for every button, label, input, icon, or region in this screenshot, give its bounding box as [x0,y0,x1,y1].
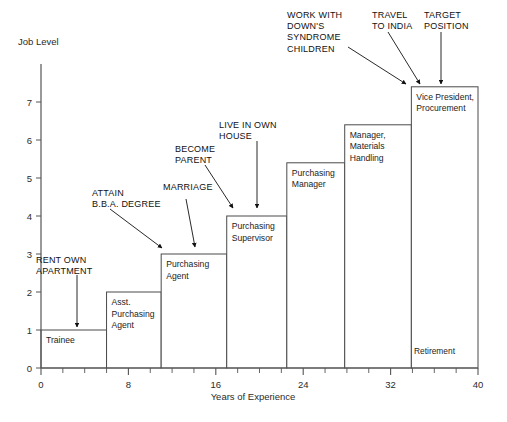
annotation-live-in-own-house: LIVE IN OWNHOUSE [219,120,277,208]
career-path-step-chart: 012345670816243240 TraineeAsst.Purchasin… [0,0,507,422]
annotation-become-parent: BECOMEPARENT [175,144,233,208]
x-tick-label: 24 [298,379,309,390]
annotation-text: MARRIAGE [163,182,213,192]
annotation-text: LIVE IN OWN [219,120,277,130]
annotation-text: SYNDROME [287,32,341,42]
annotation-text: POSITION [424,21,469,31]
y-tick-label: 5 [27,173,32,184]
annotation-text: BECOME [175,144,215,154]
annotation-text: HOUSE [219,131,252,141]
annotation-text: APARTMENT [36,266,93,276]
x-tick-label: 8 [126,379,131,390]
y-tick-label: 2 [27,287,32,298]
step-label: Purchasing [232,221,275,231]
annotation-text: ATTAIN [92,188,124,198]
annotation-arrow [388,32,420,84]
annotation-text: RENT OWN [36,255,86,265]
annotation-text: PARENT [175,155,212,165]
step-label: Handling [350,153,384,163]
retirement-label: Retirement [414,346,456,356]
x-tick-label: 40 [473,379,484,390]
x-tick-label: 32 [385,379,396,390]
annotation-arrow [348,47,406,84]
annotation-target-position: TARGETPOSITION [424,10,469,84]
y-tick-label: 0 [27,363,32,374]
annotation-text: WORK WITH [287,10,342,20]
step-label: Procurement [416,103,466,113]
step-label: Purchasing [166,259,209,269]
y-tick-label: 4 [27,211,32,222]
y-tick-label: 6 [27,135,32,146]
annotation-text: CHILDREN [287,44,335,54]
step-label: Manager, [350,130,386,140]
step-label: Supervisor [232,233,273,243]
y-tick-label: 3 [27,249,32,260]
annotation-text: TRAVEL [372,10,408,20]
annotation-arrow [110,209,162,248]
x-axis-title: Years of Experience [211,391,296,402]
annotation-attain-bba-degree: ATTAINB.B.A. DEGREE [92,188,162,248]
step-label: Trainee [46,335,75,345]
annotation-marriage: MARRIAGE [163,182,213,247]
step-label: Agent [166,271,189,281]
step-label: Asst. [112,297,131,307]
extra-labels-group: Retirement [414,346,456,356]
x-tick-label: 16 [211,379,222,390]
step-box [411,87,478,368]
step-label: Agent [112,320,135,330]
step-label: Purchasing [112,309,155,319]
step-label: Vice President, [416,92,474,102]
annotation-travel-to-india: TRAVELTO INDIA [372,10,420,84]
annotation-text: B.B.A. DEGREE [92,199,161,209]
y-tick-label: 1 [27,325,32,336]
annotation-text: DOWN'S [287,21,324,31]
step-label: Materials [350,141,385,151]
step-box [287,163,345,368]
annotation-arrow [186,199,195,247]
step-label: Purchasing [292,168,335,178]
annotation-text: TO INDIA [372,21,412,31]
step-label: Manager [292,179,326,189]
y-tick-label: 7 [27,97,32,108]
y-axis-title: Job Level [18,36,59,47]
annotation-text: TARGET [424,10,461,20]
x-tick-label: 0 [38,379,43,390]
annotation-rent-own-apartment: RENT OWNAPARTMENT [36,255,93,327]
chart-svg: 012345670816243240 TraineeAsst.Purchasin… [0,0,507,422]
